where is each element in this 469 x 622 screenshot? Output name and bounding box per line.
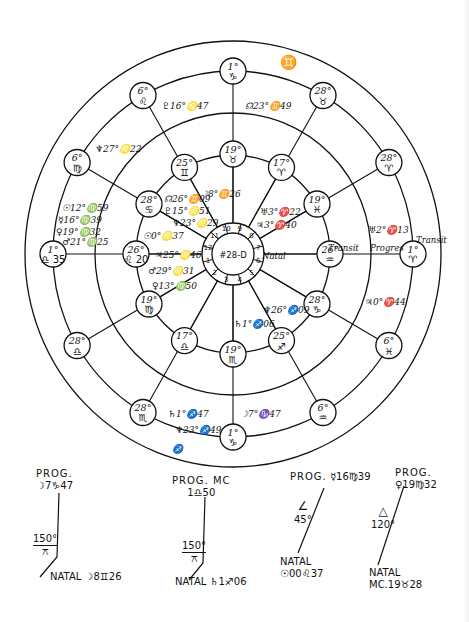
house-number-3: 3 [224, 276, 228, 284]
cusp-degree: 19° [309, 194, 326, 205]
quincunx-icon: ⚻ [33, 546, 57, 558]
zodiac-sign-icon: ♎ 35 [41, 254, 66, 265]
aspect-bottom-label: NATAL [280, 556, 323, 568]
planet-position-label: ♅2°♈13 [368, 226, 409, 235]
aspect-top-value: ☽7♑47 [36, 480, 73, 492]
natal-cusp: 19°♓ [304, 191, 330, 217]
natal-cusp: 19°♉ [220, 141, 246, 167]
aspect-degree: 150° [182, 540, 206, 553]
aspect-glyph-3: ∠ 45° [294, 500, 312, 525]
natal-ring-label: Natal [262, 252, 286, 261]
cusp-degree: 28° [134, 402, 152, 413]
cusp-degree: 17° [273, 157, 290, 168]
cusp-degree: 1° [228, 427, 239, 438]
planet-position-label: ♃0°♈44 [365, 298, 406, 307]
natal-cusp: 19°♍ [136, 291, 162, 317]
house-number-7: 7 [256, 244, 260, 252]
zodiac-sign-icon: ♉ [319, 96, 328, 107]
aspect-top-label: PROG. [395, 467, 437, 479]
aspect-top-label: PROG. MC [172, 475, 231, 487]
house-number-4: 4 [237, 276, 242, 284]
house-number-1: 1 [206, 257, 210, 265]
cusp-degree: 28° [379, 152, 397, 163]
aspect-note-4: PROG. ♀19♍32 [395, 467, 437, 490]
cusp-degree: 1° [228, 61, 239, 72]
cusp-degree: 25° [175, 157, 193, 168]
aspect-glyph-2: 150° ⚻ [182, 540, 206, 564]
cusp-degree: 26° [127, 244, 145, 255]
house-number-5: 5 [249, 269, 253, 277]
planet-position-label: ☿16°♍39 [58, 216, 102, 225]
aspect-top-label: PROG. [290, 471, 327, 482]
aspect-glyph-4: △ 120° [371, 505, 395, 530]
zodiac-sign-icon: ♏ [229, 354, 238, 365]
transit-cusp: 6°♓ [376, 333, 402, 359]
aspect-degree: 120° [371, 519, 395, 531]
cusp-degree: 28° [308, 294, 326, 305]
transit-cusp: 1°♑ [220, 424, 246, 450]
quincunx-icon: ⚻ [182, 553, 206, 565]
house-number-9: 9 [237, 225, 241, 233]
gemini-sign-label: ♊ [280, 55, 297, 69]
planet-position-label: ♃25°♌46 [155, 251, 201, 260]
cusp-degree: 6° [318, 402, 329, 413]
natal-cusp: 26°♌ 20 [123, 241, 149, 267]
natal-cusp: 17°♎ [172, 328, 198, 354]
planet-position-label: ♇16°♌47 [162, 102, 208, 111]
planet-position-label: ♐ [172, 445, 183, 454]
zodiac-sign-icon: ♈ [277, 167, 286, 178]
planet-position-label: ♆26°♐09 [263, 306, 309, 315]
zodiac-sign-icon: ♑ [229, 71, 238, 82]
aspect-line-2 [189, 497, 205, 580]
zodiac-sign-icon: ♓ [384, 346, 393, 357]
cusp-degree: 6° [72, 152, 83, 163]
transit-cusp: 28°♎ [64, 333, 90, 359]
aspect-degree: 45° [294, 514, 312, 526]
planet-position-label: ♆23°♐49 [175, 426, 221, 435]
natal-cusp: 17°♈ [269, 154, 295, 180]
planet-position-label: ♄1°♐06 [234, 320, 275, 329]
aspect-connectors [40, 486, 404, 580]
aspect-top-value: ♀19♍32 [395, 479, 437, 491]
planet-position-label: ♄1°♐47 [168, 410, 209, 419]
transit-cusp: 6°♌ [130, 83, 156, 109]
aspect-bottom-3: NATAL ☉00♌37 [280, 556, 323, 579]
aspect-glyph-1: 150° ⚻ [33, 533, 57, 557]
zodiac-sign-icon: ♏ [139, 412, 148, 423]
zodiac-sign-icon: ♒ [326, 254, 335, 265]
cusp-degree: 17° [176, 330, 193, 341]
aspect-degree: 150° [33, 533, 57, 546]
planet-position-label: ♆23°♌29 [172, 219, 218, 228]
aspect-bottom-label: NATAL [50, 571, 81, 582]
zodiac-sign-icon: ♒ [319, 412, 328, 423]
cusp-degree: 28° [314, 85, 332, 96]
aspect-bottom-value: ♄1♐06 [209, 576, 246, 587]
cusp-degree: 19° [141, 294, 158, 305]
house-number-11: 11 [210, 232, 219, 240]
zodiac-sign-icon: ♐ [277, 341, 286, 352]
planet-position-label: ♆27°♌22 [95, 145, 141, 154]
zodiac-sign-icon: ♌ [139, 96, 148, 107]
planet-position-label: ♀19°♍32 [56, 228, 101, 237]
cusp-degree: 6° [138, 85, 149, 96]
scan-edge [463, 0, 469, 622]
planet-position-label: ☉0°♌37 [143, 232, 184, 241]
natal-chart-wheel: 123456789101112 #28-D 1°♑28°♉28°♈1°♈6°♓6… [0, 0, 469, 622]
chart-id-label: #28-D [219, 250, 247, 260]
planet-position-label: ☊23°♊49 [245, 102, 291, 111]
aspect-note-1: PROG. ☽7♑47 [36, 468, 73, 491]
zodiac-sign-icon: ♑ [313, 304, 322, 315]
planet-position-label: ♅3°♈22 [260, 208, 301, 217]
aspect-bottom-label: NATAL [369, 567, 422, 579]
zodiac-sign-icon: ♍ [73, 163, 82, 174]
aspect-bottom-2: NATAL ♄1♐06 [175, 576, 247, 588]
aspect-bottom-label: NATAL [175, 576, 206, 587]
zodiac-sign-icon: ♑ [229, 437, 238, 448]
trine-icon: △ [371, 505, 395, 519]
transit-outer-label: Transit [416, 236, 447, 245]
cusp-degree: 19° [225, 144, 242, 155]
transit-cusp: 28°♏ [130, 399, 156, 425]
aspect-note-3: PROG. ☿16♍39 [290, 471, 371, 483]
transit-cusp: 28°♉ [310, 83, 336, 109]
aspect-bottom-4: NATAL MC.19♉28 [369, 567, 422, 590]
